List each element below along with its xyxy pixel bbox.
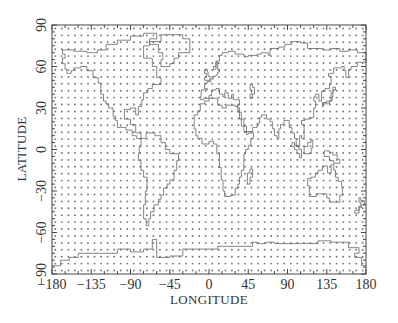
grid-point: [179, 235, 181, 237]
grid-point: [342, 207, 344, 209]
grid-point: [152, 34, 154, 36]
grid-point: [277, 90, 279, 92]
grid-point: [192, 138, 194, 140]
grid-point: [146, 228, 148, 230]
grid-point: [113, 90, 115, 92]
grid-point: [74, 62, 76, 64]
grid-point: [264, 187, 266, 189]
grid-point: [323, 34, 325, 36]
grid-point: [100, 228, 102, 230]
grid-point: [251, 28, 253, 30]
grid-point: [218, 111, 220, 113]
grid-point: [74, 69, 76, 71]
grid-point: [244, 62, 246, 64]
grid-point: [231, 111, 233, 113]
grid-point: [54, 207, 56, 209]
grid-point: [185, 117, 187, 119]
grid-point: [329, 28, 331, 30]
grid-point: [336, 214, 338, 216]
grid-point: [264, 235, 266, 237]
y-tick-label: −30: [34, 180, 49, 202]
grid-point: [166, 194, 168, 196]
grid-point: [94, 104, 96, 106]
grid-point: [67, 34, 69, 36]
grid-point: [107, 34, 109, 36]
grid-point: [166, 173, 168, 175]
grid-point: [329, 34, 331, 36]
grid-point: [120, 48, 122, 50]
grid-point: [172, 221, 174, 223]
grid-point: [120, 34, 122, 36]
grid-point: [257, 138, 259, 140]
grid-point: [146, 270, 148, 272]
grid-point: [94, 83, 96, 85]
grid-point: [303, 194, 305, 196]
grid-point: [159, 249, 161, 251]
grid-point: [120, 41, 122, 43]
grid-point: [290, 200, 292, 202]
grid-point: [172, 48, 174, 50]
grid-point: [198, 200, 200, 202]
grid-point: [100, 55, 102, 57]
grid-point: [283, 235, 285, 237]
grid-point: [126, 242, 128, 244]
grid-point: [257, 131, 259, 133]
grid-point: [303, 228, 305, 230]
grid-point: [185, 90, 187, 92]
grid-point: [54, 117, 56, 119]
grid-point: [231, 76, 233, 78]
grid-point: [231, 117, 233, 119]
grid-point: [205, 180, 207, 182]
coastline-japan: [322, 87, 335, 106]
grid-point: [120, 138, 122, 140]
grid-point: [211, 117, 213, 119]
grid-point: [264, 200, 266, 202]
grid-point: [237, 69, 239, 71]
grid-point: [283, 104, 285, 106]
grid-point: [152, 256, 154, 258]
grid-point: [290, 90, 292, 92]
grid-point: [257, 48, 259, 50]
grid-point: [218, 145, 220, 147]
grid-point: [264, 263, 266, 265]
grid-point: [61, 214, 63, 216]
grid-point: [198, 187, 200, 189]
grid-point: [211, 180, 213, 182]
grid-point: [185, 97, 187, 99]
grid-point: [237, 166, 239, 168]
grid-point: [336, 207, 338, 209]
grid-point: [218, 117, 220, 119]
grid-point: [61, 69, 63, 71]
grid-point: [264, 214, 266, 216]
grid-point: [296, 235, 298, 237]
grid-point: [80, 256, 82, 258]
grid-point: [120, 200, 122, 202]
grid-point: [349, 145, 351, 147]
grid-point: [309, 90, 311, 92]
grid-point: [264, 138, 266, 140]
grid-point: [296, 173, 298, 175]
grid-point: [237, 249, 239, 251]
grid-point: [192, 214, 194, 216]
grid-point: [152, 55, 154, 57]
grid-point: [152, 263, 154, 265]
grid-point: [231, 138, 233, 140]
grid-point: [237, 138, 239, 140]
grid-point: [211, 235, 213, 237]
grid-point: [166, 214, 168, 216]
grid-point: [316, 124, 318, 126]
grid-point: [166, 69, 168, 71]
grid-point: [185, 111, 187, 113]
grid-point: [126, 69, 128, 71]
grid-point: [309, 228, 311, 230]
grid-point: [87, 138, 89, 140]
grid-point: [290, 166, 292, 168]
grid-point: [113, 41, 115, 43]
grid-point: [283, 131, 285, 133]
grid-point: [54, 187, 56, 189]
grid-point: [211, 69, 213, 71]
grid-point: [244, 145, 246, 147]
grid-point: [100, 152, 102, 154]
grid-point: [205, 214, 207, 216]
grid-point: [224, 180, 226, 182]
